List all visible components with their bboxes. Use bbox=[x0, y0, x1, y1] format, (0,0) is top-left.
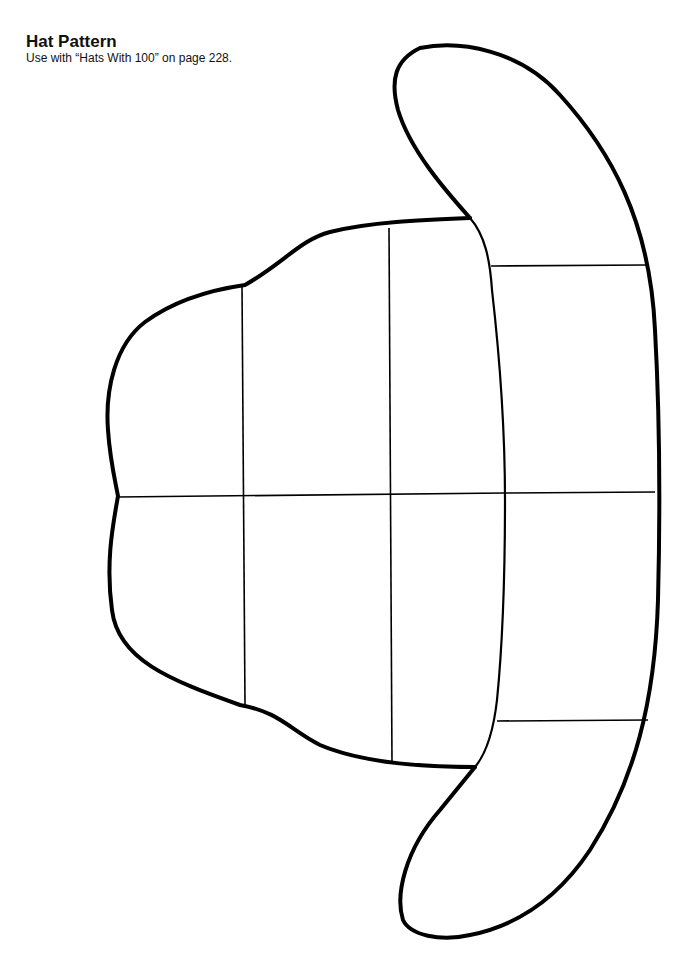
crown-outline bbox=[107, 218, 475, 767]
crown-vertical-line-2 bbox=[389, 228, 392, 763]
brim-section-line-top bbox=[491, 265, 646, 266]
brim-section-line-bottom bbox=[497, 720, 648, 721]
crown-horizontal-line bbox=[118, 493, 505, 497]
brim-section-line-middle bbox=[505, 492, 655, 493]
hat-pattern-drawing bbox=[0, 0, 690, 961]
